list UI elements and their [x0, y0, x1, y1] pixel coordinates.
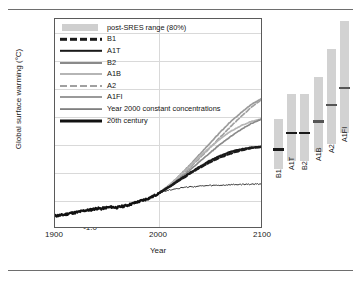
legend-line — [60, 38, 102, 40]
range-bar-b1: B1 — [274, 18, 283, 228]
legend-key-icon — [60, 81, 102, 90]
legend-label: A1T — [107, 47, 121, 55]
legend-item-year-2000-constant-concentrations: Year 2000 constant concentrations — [60, 103, 210, 115]
legend-label: B2 — [107, 59, 116, 67]
legend-label: A2 — [107, 82, 116, 90]
legend-label: post-SRES range (80%) — [107, 24, 186, 32]
bottom-divider-rule — [8, 270, 353, 271]
x-tick-label: 2100 — [242, 231, 282, 239]
range-bar-panel: B1A1TB2A1BA2A1FI — [272, 18, 356, 228]
legend-key-icon — [60, 46, 102, 55]
legend-key-icon — [60, 70, 102, 79]
top-divider-rule — [8, 9, 353, 10]
legend-line — [60, 62, 102, 64]
legend-item-a1fi: A1FI — [60, 92, 210, 104]
legend-line — [60, 119, 102, 122]
range-bar-label: B2 — [301, 161, 308, 170]
range-bar-a1fi: A1FI — [340, 18, 349, 228]
range-bar-b2: B2 — [300, 18, 309, 228]
x-tick-label: 1900 — [34, 231, 74, 239]
range-bar-a2: A2 — [327, 18, 336, 228]
x-tick-label: 2000 — [138, 231, 178, 239]
range-bar-best-estimate — [339, 87, 350, 89]
legend-key-icon — [60, 104, 102, 113]
range-bar-extent — [274, 119, 283, 169]
legend-label: 20th century — [107, 117, 148, 125]
range-bar-best-estimate — [286, 132, 297, 134]
range-bar-extent — [327, 49, 336, 144]
legend-key-icon — [60, 116, 102, 125]
legend-label: B1 — [107, 35, 116, 43]
range-bar-label: A1T — [288, 157, 295, 170]
y-axis-label: Global surface warming (°C) — [15, 34, 23, 164]
series-line — [55, 194, 158, 217]
legend-item-post-sres-range-80: post-SRES range (80%) — [60, 22, 210, 34]
range-bar-best-estimate — [313, 120, 324, 122]
legend-label: Year 2000 constant concentrations — [107, 105, 221, 113]
range-bar-best-estimate — [273, 148, 284, 150]
legend-item-b1: B1 — [60, 34, 210, 46]
legend-line — [60, 50, 102, 52]
legend-item-a2: A2 — [60, 80, 210, 92]
range-bar-label: A1FI — [341, 127, 348, 142]
legend-key-icon — [60, 93, 102, 102]
legend-line — [60, 96, 102, 98]
range-bar-label: A2 — [328, 144, 335, 153]
range-bar-extent — [340, 21, 349, 133]
legend-swatch — [62, 24, 98, 31]
figure-container: -1.00.01.02.03.04.05.06.0 Global surface… — [0, 0, 361, 282]
legend-item-20th-century: 20th century — [60, 115, 210, 127]
legend-line — [60, 85, 102, 87]
legend-key-icon — [60, 35, 102, 44]
legend-line — [60, 73, 102, 75]
legend-item-a1t: A1T — [60, 45, 210, 57]
legend-line — [60, 109, 102, 110]
range-bar-best-estimate — [299, 132, 310, 134]
range-bar-a1b: A1B — [314, 18, 323, 228]
range-bar-a1t: A1T — [287, 18, 296, 228]
range-bar-extent — [287, 94, 296, 161]
legend-item-b2: B2 — [60, 57, 210, 69]
legend-key-icon — [60, 58, 102, 67]
range-bar-label: B1 — [275, 169, 282, 178]
range-bar-best-estimate — [326, 104, 337, 106]
x-axis-label: Year — [54, 247, 262, 255]
range-bar-label: A1B — [315, 148, 322, 162]
legend-label: A1FI — [107, 93, 123, 101]
range-bar-extent — [300, 94, 309, 161]
legend-label: A1B — [107, 70, 121, 78]
range-bar-extent — [314, 77, 323, 153]
chart-legend: post-SRES range (80%)B1A1TB2A1BA2A1FIYea… — [60, 22, 210, 126]
legend-item-a1b: A1B — [60, 68, 210, 80]
legend-key-icon — [60, 23, 102, 32]
